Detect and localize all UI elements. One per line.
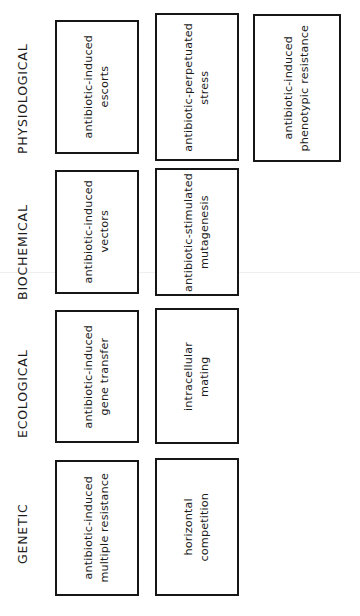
category-label-ecological: ECOLOGICAL — [17, 322, 30, 438]
node-label: antibiotic-stimulated mutagenesis — [181, 173, 213, 292]
node-antibiotic-induced-multiple-resistance[interactable]: antibiotic-induced multiple resistance — [55, 460, 139, 596]
category-label-genetic: GENETIC — [17, 478, 30, 564]
node-antibiotic-stimulated-mutagenesis[interactable]: antibiotic-stimulated mutagenesis — [155, 168, 239, 296]
category-label-biochemical: BIOCHEMICAL — [17, 180, 30, 300]
node-horizontal-competition[interactable]: horizontal competition — [155, 458, 239, 596]
node-label: intracellular mating — [181, 342, 213, 411]
node-label: antibiotic-induced multiple resistance — [81, 473, 113, 582]
node-antibiotic-perpetuated-stress[interactable]: antibiotic-perpetuated stress — [155, 13, 239, 161]
node-antibiotic-induced-gene-transfer[interactable]: antibiotic-induced gene transfer — [55, 310, 139, 443]
node-intracellular-mating[interactable]: intracellular mating — [155, 308, 239, 444]
diagram-canvas: PHYSIOLOGICAL antibiotic-induced escorts… — [0, 0, 360, 616]
node-antibiotic-induced-vectors[interactable]: antibiotic-induced vectors — [55, 170, 139, 294]
node-label: antibiotic-induced vectors — [81, 180, 113, 283]
node-label: antibiotic-perpetuated stress — [181, 23, 213, 152]
node-antibiotic-induced-escorts[interactable]: antibiotic-induced escorts — [55, 20, 139, 154]
node-label: antibiotic-induced gene transfer — [81, 325, 113, 428]
category-label-physiological: PHYSIOLOGICAL — [17, 18, 30, 154]
node-label: antibiotic-induced escorts — [81, 35, 113, 138]
node-antibiotic-induced-phenotypic-resistance[interactable]: antibiotic-induced phenotypic resistance — [253, 14, 341, 162]
node-label: horizontal competition — [181, 493, 213, 561]
node-label: antibiotic-induced phenotypic resistance — [281, 25, 313, 151]
